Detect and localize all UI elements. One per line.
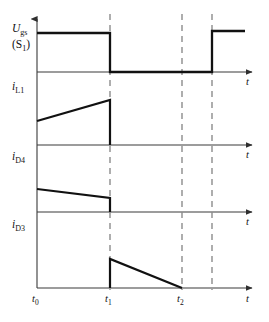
waveform-il1 xyxy=(37,100,110,145)
signal-label-ugs-sub: gs xyxy=(20,28,27,37)
waveform-id3 xyxy=(110,259,182,288)
signal-label-ugs: Ugs xyxy=(12,22,27,38)
signal-label-switch-open: (S xyxy=(12,38,22,50)
waveform-ugs xyxy=(37,31,245,72)
signal-label-id3-sub: D3 xyxy=(15,224,25,233)
signal-label-switch-close: ) xyxy=(26,38,30,50)
time-tick-t0: t0 xyxy=(32,293,39,307)
time-tick-t2-sub: 2 xyxy=(180,298,184,307)
signal-label-id4: iD4 xyxy=(12,150,25,166)
signal-label-id3: iD3 xyxy=(12,218,25,234)
time-tick-t0-sub: 0 xyxy=(35,298,39,307)
time-tick-t2: t2 xyxy=(177,293,184,307)
time-axis-label-ugs: t xyxy=(246,76,249,87)
time-tick-t1: t1 xyxy=(105,293,112,307)
waveform-id4 xyxy=(37,189,110,212)
signal-label-id4-sub: D4 xyxy=(15,156,25,165)
waveform-canvas xyxy=(0,0,269,322)
time-axis-label-id3: t xyxy=(246,293,249,304)
signal-label-switch: (S1) xyxy=(12,38,30,54)
time-tick-t1-sub: 1 xyxy=(108,298,112,307)
signal-label-il1-sub: L1 xyxy=(15,86,24,95)
time-axis-label-il1: t xyxy=(246,149,249,160)
signal-label-il1: iL1 xyxy=(12,80,24,96)
time-axis-label-id4: t xyxy=(246,216,249,227)
waveform-figure: Ugs (S1) iL1 iD4 iD3 t t t t t0 t1 t2 xyxy=(0,0,269,322)
